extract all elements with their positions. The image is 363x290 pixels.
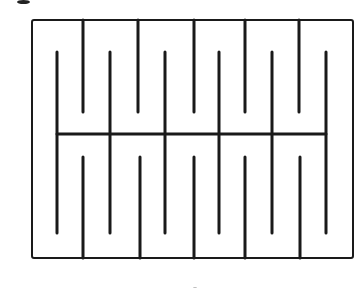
top-fingers bbox=[83, 20, 299, 112]
long-fingers bbox=[57, 52, 326, 233]
bottom-fingers bbox=[83, 157, 300, 258]
stray-marks bbox=[17, 0, 197, 288]
comb-diagram bbox=[0, 0, 363, 290]
tick-mark bbox=[193, 287, 197, 288]
cut-off-glyph bbox=[17, 0, 30, 4]
